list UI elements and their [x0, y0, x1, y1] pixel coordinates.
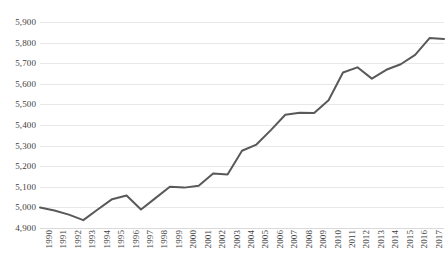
- x-tick-label: 1996: [131, 230, 141, 248]
- y-tick-label: 5,800: [15, 38, 36, 48]
- y-tick-label: 5,000: [15, 202, 36, 212]
- x-tick-label: 2002: [217, 230, 227, 248]
- x-tick-label: 2013: [376, 230, 386, 248]
- series-polyline: [40, 38, 444, 220]
- x-tick-label: 2003: [232, 230, 242, 248]
- y-tick-label: 5,300: [15, 141, 36, 151]
- x-tick-label: 2012: [361, 230, 371, 248]
- data-series-line: [40, 22, 444, 228]
- y-tick-label: 5,200: [15, 161, 36, 171]
- x-tick-label: 2007: [289, 230, 299, 248]
- x-tick-label: 2016: [419, 230, 429, 248]
- x-tick-label: 1991: [58, 230, 68, 248]
- x-tick-label: 2009: [318, 230, 328, 248]
- x-tick-label: 1990: [44, 230, 54, 248]
- x-axis: 1990199119921993199419951996199719981999…: [40, 228, 444, 267]
- x-tick-label: 1998: [159, 230, 169, 248]
- y-tick-label: 5,400: [15, 120, 36, 130]
- line-chart: 5,9005,8005,7005,6005,5005,4005,3005,200…: [0, 0, 448, 267]
- x-tick-label: 2000: [188, 230, 198, 248]
- x-tick-label: 2010: [333, 230, 343, 248]
- x-tick-label: 1993: [87, 230, 97, 248]
- y-tick-label: 5,100: [15, 182, 36, 192]
- y-tick-label: 5,500: [15, 99, 36, 109]
- x-tick-label: 2015: [405, 230, 415, 248]
- x-tick-label: 2004: [246, 230, 256, 248]
- x-tick-label: 1995: [116, 230, 126, 248]
- x-tick-label: 1997: [145, 230, 155, 248]
- plot-area: [40, 22, 444, 228]
- y-tick-label: 5,900: [15, 17, 36, 27]
- x-tick-label: 2014: [390, 230, 400, 248]
- y-axis: 5,9005,8005,7005,6005,5005,4005,3005,200…: [0, 0, 40, 267]
- x-tick-label: 2017: [434, 230, 444, 248]
- x-tick-label: 1994: [102, 230, 112, 248]
- y-tick-label: 4,900: [15, 223, 36, 233]
- x-tick-label: 2005: [260, 230, 270, 248]
- x-tick-label: 1999: [174, 230, 184, 248]
- x-tick-label: 2006: [275, 230, 285, 248]
- y-tick-label: 5,600: [15, 79, 36, 89]
- x-tick-label: 2001: [203, 230, 213, 248]
- y-tick-label: 5,700: [15, 58, 36, 68]
- x-tick-label: 2008: [304, 230, 314, 248]
- x-tick-label: 2011: [347, 230, 357, 248]
- x-tick-label: 1992: [73, 230, 83, 248]
